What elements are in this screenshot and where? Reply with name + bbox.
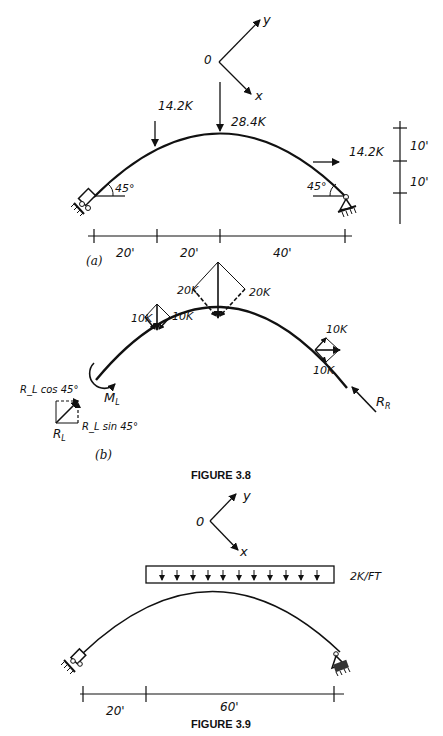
axes-icon: 0 y x xyxy=(204,12,271,103)
right-reaction-arrow-icon xyxy=(352,387,376,412)
right-load-components-icon: 10K 10K xyxy=(313,323,348,377)
figure-3-8-part-a: 0 y x 45° 45° 14.2K xyxy=(71,12,429,268)
figure-3-8-part-b: 20K 20K 10K 10K 10K 10K RR ML xyxy=(20,262,391,462)
vertical-dim-lower: 10' xyxy=(410,175,429,189)
right-load-label: 14.2K xyxy=(349,145,385,159)
horizontal-dim-1: 20' xyxy=(116,246,135,260)
axis-origin-label: 0 xyxy=(196,514,204,529)
part-a-label: (a) xyxy=(86,254,103,268)
left-load-label: 14.2K xyxy=(158,99,194,113)
left-load-components-icon: 10K 10K xyxy=(131,304,194,330)
axis-y-label: y xyxy=(262,12,271,27)
roller-support-icon xyxy=(71,189,95,216)
axis-x-label: x xyxy=(239,544,248,559)
distributed-load-icon xyxy=(146,566,334,583)
horizontal-dim-2: 60' xyxy=(220,700,239,714)
horizontal-dimension: 20' 60' xyxy=(80,686,344,718)
axis-x-label: x xyxy=(254,88,263,103)
part-b-label: (b) xyxy=(95,448,112,462)
left-component-right-label: 10K xyxy=(172,310,194,323)
left-angle-arc xyxy=(108,184,113,196)
figure-3-9-caption: FIGURE 3.9 xyxy=(191,718,251,730)
horizontal-dim-3: 40' xyxy=(273,246,292,260)
horizontal-dim-2: 20' xyxy=(180,246,199,260)
arch-curve xyxy=(82,591,340,654)
right-component-bottom-label: 10K xyxy=(313,364,335,377)
figure-3-9: 0 y x 2K/FT xyxy=(61,488,382,718)
axes-icon: 0 y x xyxy=(196,488,251,559)
roller-support-icon xyxy=(61,649,86,674)
left-reaction-cos-label: R_L cos 45° xyxy=(20,384,78,396)
figure-3-8-caption: FIGURE 3.8 xyxy=(191,469,251,481)
vertical-dim-upper: 10' xyxy=(410,139,429,153)
center-component-left-label: 20K xyxy=(177,284,199,297)
distributed-load-label: 2K/FT xyxy=(350,570,382,583)
horizontal-dim-1: 20' xyxy=(106,704,125,718)
moment-arrow-icon xyxy=(90,363,115,388)
moment-label: ML xyxy=(104,390,120,407)
center-component-right-label: 20K xyxy=(249,286,271,299)
left-component-left-label: 10K xyxy=(131,312,153,325)
diagram-canvas: 0 y x 45° 45° 14.2K xyxy=(0,0,443,736)
left-reaction-components-icon xyxy=(56,401,78,423)
right-reaction-label: RR xyxy=(376,394,391,411)
right-component-top-label: 10K xyxy=(326,323,348,336)
vertical-dimension: 10' 10' xyxy=(393,121,429,224)
pin-support-icon xyxy=(332,652,350,676)
horizontal-dimension: 20' 20' 40' xyxy=(88,229,352,260)
pin-support-icon xyxy=(338,195,356,218)
axis-origin-label: 0 xyxy=(204,53,212,67)
left-angle-label: 45° xyxy=(115,182,135,195)
center-load-label: 28.4K xyxy=(231,115,267,129)
axis-y-label: y xyxy=(242,488,251,503)
right-angle-label: 45° xyxy=(307,180,327,193)
left-reaction-label: RL xyxy=(53,427,66,443)
left-reaction-sin-label: R_L sin 45° xyxy=(82,421,138,433)
